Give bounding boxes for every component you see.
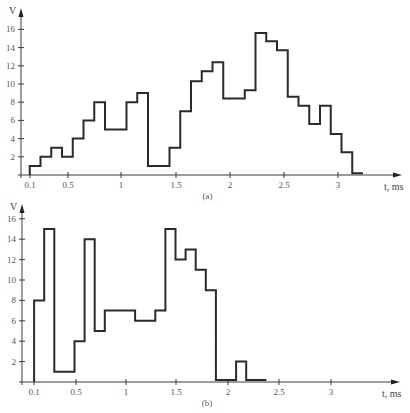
y-tick-label: 8 bbox=[12, 295, 17, 305]
x-tick-label: 0.1 bbox=[24, 180, 35, 190]
x-tick-label: 1 bbox=[124, 387, 129, 397]
y-tick-label: 14 bbox=[6, 43, 16, 53]
x-tick-label: 2.5 bbox=[278, 180, 290, 190]
x-tick-label: 2.5 bbox=[273, 387, 285, 397]
y-tick-label: 14 bbox=[7, 234, 17, 244]
x-axis-label: t, ms bbox=[382, 388, 402, 399]
y-tick-label: 12 bbox=[6, 61, 15, 71]
chart-panel-a: Vt, ms2468101214160.10.511.522.53(a) bbox=[6, 5, 404, 201]
y-tick-label: 12 bbox=[7, 255, 16, 265]
y-axis-label: V bbox=[9, 5, 17, 16]
y-tick-label: 6 bbox=[12, 316, 17, 326]
y-tick-label: 10 bbox=[7, 275, 17, 285]
x-tick-label: 2 bbox=[226, 387, 231, 397]
x-axis-arrow-icon bbox=[393, 173, 402, 178]
x-tick-label: 1 bbox=[119, 180, 124, 190]
y-tick-label: 4 bbox=[11, 134, 16, 144]
y-axis-label: V bbox=[10, 201, 18, 212]
x-tick-label: 2 bbox=[228, 180, 233, 190]
chart-panel-b: Vt, ms2468101214160.10.511.522.53(b) bbox=[7, 201, 402, 408]
x-tick-label: 1.5 bbox=[170, 180, 182, 190]
y-tick-label: 2 bbox=[12, 357, 17, 367]
x-axis-arrow-icon bbox=[391, 380, 400, 385]
panel-caption: (a) bbox=[203, 191, 213, 201]
step-charts-figure: Vt, ms2468101214160.10.511.522.53(a) Vt,… bbox=[0, 0, 410, 413]
y-axis-arrow-icon bbox=[19, 8, 24, 17]
x-axis-label: t, ms bbox=[384, 181, 404, 192]
y-tick-label: 10 bbox=[6, 79, 16, 89]
x-tick-label: 0.5 bbox=[70, 387, 82, 397]
x-tick-label: 3 bbox=[329, 387, 334, 397]
y-tick-label: 16 bbox=[7, 214, 17, 224]
step-trace bbox=[30, 33, 363, 175]
x-tick-label: 0.1 bbox=[28, 387, 39, 397]
y-tick-label: 2 bbox=[11, 152, 16, 162]
y-tick-label: 6 bbox=[11, 115, 16, 125]
y-tick-label: 4 bbox=[12, 336, 17, 346]
x-tick-label: 0.5 bbox=[62, 180, 74, 190]
step-trace bbox=[34, 229, 266, 382]
x-tick-label: 1.5 bbox=[170, 387, 182, 397]
y-axis-arrow-icon bbox=[20, 204, 25, 213]
y-tick-label: 16 bbox=[6, 24, 16, 34]
x-tick-label: 3 bbox=[336, 180, 341, 190]
y-tick-label: 8 bbox=[11, 97, 16, 107]
panel-caption: (b) bbox=[202, 398, 213, 408]
